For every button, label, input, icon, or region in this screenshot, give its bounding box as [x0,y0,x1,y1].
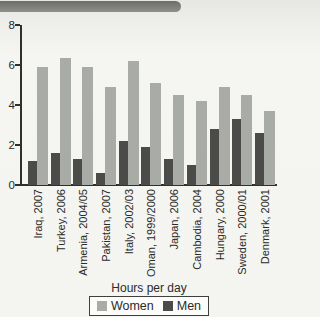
x-category-label-text: Italy, 2002/03 [122,189,135,254]
legend: WomenMen [89,296,209,316]
x-axis-title: Hours per day [21,281,277,295]
bar-group [28,67,48,185]
x-category-label-text: Japan, 2006 [168,189,181,250]
bar-group [187,101,207,185]
bar-men [119,141,128,185]
y-tick-mark [15,64,20,66]
x-category-label: Hungary, 2000 [210,189,230,285]
bar-women [37,67,48,185]
legend-item-men: Men [163,299,201,313]
x-category-label: Oman, 1999/2000 [141,189,161,285]
bar-group [210,87,230,185]
bar-group [73,67,93,185]
y-tick-label: 2 [0,139,15,152]
x-category-label: Italy, 2002/03 [119,189,139,285]
x-category-label-text: Iraq, 2007 [32,189,45,239]
y-tick-label: 8 [0,19,15,32]
bar-men [210,129,219,185]
legend-label: Women [111,299,154,313]
x-category-label: Sweden, 2000/01 [232,189,252,285]
bar-group [51,58,71,185]
bar-group [141,83,161,185]
bar-group [119,61,139,185]
bar-women [82,67,93,185]
x-category-label: Denmark, 2001 [255,189,275,285]
bar-women [173,95,184,185]
y-tick-mark [15,24,20,26]
bar-women [150,83,161,185]
legend-label: Men [177,299,201,313]
x-category-label: Japan, 2006 [164,189,184,285]
bar-group [232,95,252,185]
x-category-label-text: Denmark, 2001 [258,189,271,264]
x-category-label: Turkey, 2006 [51,189,71,285]
y-tick-mark [15,104,20,106]
bar-men [96,173,105,185]
bar-men [141,147,150,185]
bar-women [241,95,252,185]
x-category-label-text: Cambodia, 2004 [190,189,203,270]
bar-group [255,111,275,185]
x-category-label-text: Turkey, 2006 [54,189,67,252]
y-tick-mark [15,144,20,146]
x-category-label: Pakistan, 2007 [96,189,116,285]
x-category-label-text: Armenia, 2004/05 [77,189,90,276]
x-category-label: Cambodia, 2004 [187,189,207,285]
plot-area [21,25,277,185]
x-axis-labels: Iraq, 2007Turkey, 2006Armenia, 2004/05Pa… [21,189,277,285]
bar-women [60,58,71,185]
x-category-label-text: Oman, 1999/2000 [145,189,158,277]
bar-women [196,101,207,185]
bar-group [96,87,116,185]
y-tick-mark [15,184,20,186]
legend-container: WomenMen [21,296,277,316]
x-category-label: Iraq, 2007 [28,189,48,285]
legend-swatch-women [97,301,107,311]
bar-chart: 02468 Iraq, 2007Turkey, 2006Armenia, 200… [0,0,285,317]
bar-men [73,159,82,185]
bar-men [51,153,60,185]
x-category-label: Armenia, 2004/05 [73,189,93,285]
bar-group [164,95,184,185]
legend-item-women: Women [97,299,154,313]
bar-women [219,87,230,185]
x-category-label-text: Hungary, 2000 [213,189,226,260]
x-category-label-text: Pakistan, 2007 [100,189,113,262]
bar-men [232,119,241,185]
y-tick-label: 6 [0,59,15,72]
bar-women [105,87,116,185]
x-category-label-text: Sweden, 2000/01 [236,189,249,275]
y-tick-label: 0 [0,179,15,192]
bar-men [164,159,173,185]
bar-men [28,161,37,185]
bar-women [128,61,139,185]
bar-women [264,111,275,185]
legend-swatch-men [163,301,173,311]
y-tick-label: 4 [0,99,15,112]
bar-men [187,165,196,185]
bar-men [255,133,264,185]
